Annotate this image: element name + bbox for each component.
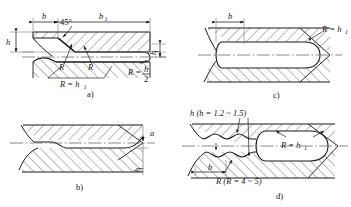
panel-a-label-R-h-over-2: R = bbox=[127, 67, 141, 77]
panel-a-label-b1: b bbox=[99, 11, 103, 21]
panel-a-label-b: b bbox=[42, 11, 46, 21]
panel-b-label-a: a bbox=[150, 128, 154, 138]
panel-b-label-h1-sub: 1 bbox=[138, 167, 144, 170]
panel-d-label-R-range: R (R = 4 ~ 5) bbox=[215, 176, 262, 186]
panel-d-label-R-h1: R = h bbox=[280, 140, 300, 150]
panel-a-label-h: h bbox=[6, 37, 10, 47]
panel-d-label-R-h1-sub: 1 bbox=[304, 145, 307, 151]
panel-a-label-h1-sub: 1 bbox=[154, 50, 160, 53]
panel-c-label-b: b bbox=[228, 11, 232, 21]
panel-a-label-R-right: R bbox=[87, 62, 94, 72]
panel-a-label-R-h1: R = h bbox=[59, 79, 79, 89]
panel-a-label-R-h-over-2-den: 2 bbox=[144, 74, 148, 84]
panel-a-label-R-left: R bbox=[58, 62, 65, 72]
panel-b-lower-hatch bbox=[22, 148, 143, 172]
panel-a-caption: a) bbox=[87, 89, 94, 99]
panel-c-label-R-h1: R = h bbox=[321, 24, 341, 34]
engineering-drawing: b b 1 h h 1 45° R R R = h 1 R = h 2 a) bbox=[0, 0, 351, 207]
panel-d-label-b: b bbox=[208, 162, 212, 172]
panel-a-label-b1-sub: 1 bbox=[105, 16, 108, 22]
panel-b-upper-hatch bbox=[23, 125, 143, 140]
panel-d-caption: d) bbox=[276, 191, 283, 201]
panel-a-label-45deg: 45° bbox=[60, 17, 72, 27]
panel-c-label-R-h1-sub: 1 bbox=[345, 29, 348, 35]
panel-b-caption: b) bbox=[76, 182, 83, 192]
panel-d-label-h-range: h (h = 1.2 ~ 1.5) bbox=[190, 108, 247, 118]
panel-a-label-R-h-over-2-num: h bbox=[144, 64, 148, 74]
panel-c-caption: c) bbox=[273, 90, 280, 100]
